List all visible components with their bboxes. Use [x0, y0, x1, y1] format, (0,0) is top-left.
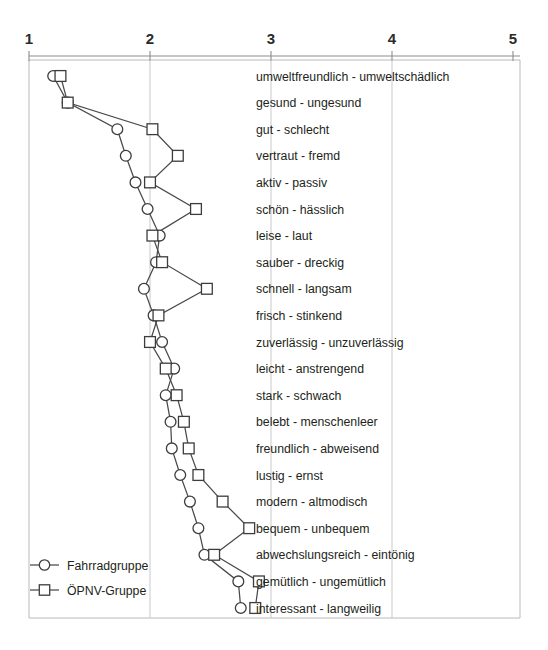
data-point-fahrradgruppe-5 [142, 204, 153, 215]
data-point--pnv-gruppe-12 [171, 390, 182, 401]
data-point-fahrradgruppe-10 [157, 337, 168, 348]
x-tick-label-5: 5 [509, 30, 517, 47]
legend-marker-circle-icon [39, 560, 49, 570]
data-point-fahrradgruppe-4 [130, 177, 141, 188]
data-point--pnv-gruppe-2 [147, 124, 158, 135]
data-point-fahrradgruppe-14 [166, 443, 177, 454]
x-tick-label-3: 3 [267, 30, 275, 47]
data-point--pnv-gruppe-5 [191, 204, 202, 215]
category-label-0: umweltfreundlich - umweltschädlich [256, 70, 450, 84]
data-point--pnv-gruppe-15 [193, 470, 204, 481]
category-label-8: schnell - langsam [256, 282, 352, 296]
legend-label--pnv-gruppe: ÖPNV-Gruppe [67, 584, 146, 598]
data-point--pnv-gruppe-3 [172, 150, 183, 161]
category-label-3: vertraut - fremd [256, 149, 340, 163]
data-point-fahrradgruppe-16 [185, 496, 196, 507]
data-point-fahrradgruppe-13 [165, 416, 176, 427]
data-point-fahrradgruppe-8 [139, 283, 150, 294]
data-point--pnv-gruppe-4 [145, 177, 156, 188]
semantic-differential-chart: 12345umweltfreundlich - umweltschädlichg… [0, 0, 548, 650]
data-point--pnv-gruppe-10 [145, 337, 156, 348]
category-label-11: leicht - anstrengend [256, 362, 364, 376]
data-point--pnv-gruppe-14 [183, 443, 194, 454]
category-label-5: schön - hässlich [256, 203, 344, 217]
data-point--pnv-gruppe-1 [62, 97, 73, 108]
data-point--pnv-gruppe-9 [153, 310, 164, 321]
data-point-fahrradgruppe-3 [120, 150, 131, 161]
data-point--pnv-gruppe-13 [178, 416, 189, 427]
category-label-15: lustig - ernst [256, 469, 324, 483]
category-label-7: sauber - dreckig [256, 256, 344, 270]
category-label-19: gemütlich - ungemütlich [256, 575, 386, 589]
category-label-2: gut - schlecht [256, 123, 330, 137]
data-point-fahrradgruppe-15 [175, 470, 186, 481]
x-tick-label-1: 1 [25, 30, 33, 47]
category-label-13: belebt - menschenleer [256, 415, 378, 429]
data-point-fahrradgruppe-12 [160, 390, 171, 401]
data-point--pnv-gruppe-7 [157, 257, 168, 268]
legend-marker-square-icon [39, 585, 49, 595]
chart-canvas: 12345umweltfreundlich - umweltschädlichg… [0, 0, 548, 650]
data-point--pnv-gruppe-18 [209, 549, 220, 560]
data-point-fahrradgruppe-2 [112, 124, 123, 135]
category-label-12: stark - schwach [256, 389, 342, 403]
category-label-14: freundlich - abweisend [256, 442, 379, 456]
data-point--pnv-gruppe-17 [244, 523, 255, 534]
data-point--pnv-gruppe-11 [160, 363, 171, 374]
category-label-20: interessant - langweilig [256, 602, 381, 616]
category-label-6: leise - laut [256, 229, 313, 243]
x-tick-label-2: 2 [146, 30, 154, 47]
category-label-1: gesund - ungesund [256, 96, 361, 110]
data-point-fahrradgruppe-20 [235, 603, 246, 614]
data-point--pnv-gruppe-6 [147, 230, 158, 241]
data-point-fahrradgruppe-19 [233, 576, 244, 587]
category-label-9: frisch - stinkend [256, 309, 342, 323]
data-point--pnv-gruppe-0 [55, 71, 66, 82]
data-point--pnv-gruppe-8 [201, 283, 212, 294]
legend-label-fahrradgruppe: Fahrradgruppe [67, 559, 149, 573]
category-label-10: zuverlässig - unzuverlässig [256, 336, 404, 350]
category-label-18: abwechslungsreich - eintönig [256, 548, 415, 562]
category-label-17: bequem - unbequem [256, 522, 369, 536]
x-tick-label-4: 4 [388, 30, 397, 47]
data-point--pnv-gruppe-16 [217, 496, 228, 507]
category-label-4: aktiv - passiv [256, 176, 328, 190]
data-point-fahrradgruppe-17 [193, 523, 204, 534]
category-label-16: modern - altmodisch [256, 495, 368, 509]
